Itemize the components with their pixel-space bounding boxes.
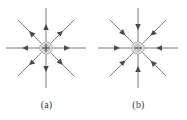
arrowhead-a-0	[64, 45, 70, 51]
arrowhead-b-180	[114, 45, 120, 51]
arrowhead-b-225	[119, 61, 125, 66]
arrowhead-a-180	[22, 45, 28, 51]
arrowhead-a-225	[29, 60, 35, 65]
caption-row: (a) (b)	[0, 96, 187, 118]
panel-a-positive-charge	[0, 2, 93, 97]
arrowhead-b-45	[151, 30, 157, 35]
electric-field-figure: (a) (b)	[0, 0, 187, 120]
field-diagram-b	[92, 2, 185, 97]
arrowhead-b-270	[135, 66, 141, 72]
arrowhead-b-0	[156, 45, 162, 51]
arrowhead-a-270	[43, 66, 49, 72]
caption-panel-a: (a)	[0, 96, 93, 114]
caption-panel-b: (b)	[92, 96, 185, 114]
arrowhead-b-90	[135, 24, 141, 30]
field-diagram-a	[0, 2, 93, 97]
arrowhead-a-90	[43, 24, 49, 30]
arrowhead-a-45	[57, 31, 63, 36]
panel-b-negative-charge	[92, 2, 185, 97]
